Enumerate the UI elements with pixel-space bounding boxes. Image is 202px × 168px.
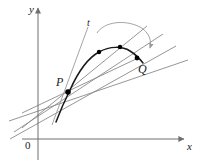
secant-line-2 bbox=[14, 34, 163, 132]
rotation-arrow bbox=[97, 22, 151, 48]
y-axis-label: y bbox=[29, 4, 34, 15]
secant-line-1 bbox=[22, 26, 147, 128]
point-q-label: Q bbox=[138, 63, 147, 75]
secant-line-5 bbox=[22, 59, 136, 113]
tangent-line-label: t bbox=[87, 18, 90, 28]
tangent-secant-diagram: y x 0 P Q t bbox=[0, 0, 202, 168]
point-r2-marker bbox=[118, 45, 122, 49]
secant-line-4 bbox=[9, 60, 188, 121]
secant-line-group bbox=[9, 26, 188, 139]
origin-label: 0 bbox=[25, 140, 31, 151]
function-curve bbox=[56, 47, 143, 122]
axes-group bbox=[22, 8, 184, 160]
x-axis-label: x bbox=[187, 141, 192, 152]
point-q-marker bbox=[135, 56, 140, 61]
point-r3-marker bbox=[97, 50, 101, 54]
point-p-marker bbox=[65, 89, 71, 95]
point-p-label: P bbox=[56, 76, 63, 88]
